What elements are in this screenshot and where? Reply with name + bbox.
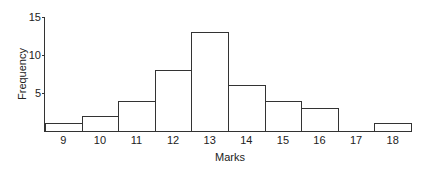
bar-16	[301, 108, 339, 131]
x-tick-label: 17	[338, 134, 375, 146]
x-tick-label: 15	[265, 134, 302, 146]
x-tick-label: 10	[82, 134, 119, 146]
bar-10	[82, 116, 120, 131]
bar-11	[118, 101, 156, 131]
bar-12	[155, 70, 193, 131]
y-axis	[44, 17, 45, 132]
histogram-chart: 51015 9101112131415161718 Frequency Mark…	[0, 0, 430, 174]
x-tick-label: 13	[191, 134, 228, 146]
y-tick	[42, 17, 45, 18]
bar-18	[374, 123, 412, 131]
y-tick-label: 15	[21, 11, 41, 23]
y-axis-label: Frequency	[16, 34, 28, 114]
x-axis-label: Marks	[200, 151, 260, 163]
x-tick-label: 11	[118, 134, 155, 146]
bar-14	[228, 85, 266, 131]
x-tick-label: 12	[155, 134, 192, 146]
y-tick	[42, 55, 45, 56]
x-axis	[44, 131, 412, 132]
bar-13	[191, 32, 229, 131]
y-tick	[42, 93, 45, 94]
bar-15	[265, 101, 303, 131]
x-tick-label: 9	[45, 134, 82, 146]
x-tick-label: 16	[301, 134, 338, 146]
bar-9	[45, 123, 83, 131]
x-tick-label: 14	[228, 134, 265, 146]
x-tick-label: 18	[374, 134, 411, 146]
